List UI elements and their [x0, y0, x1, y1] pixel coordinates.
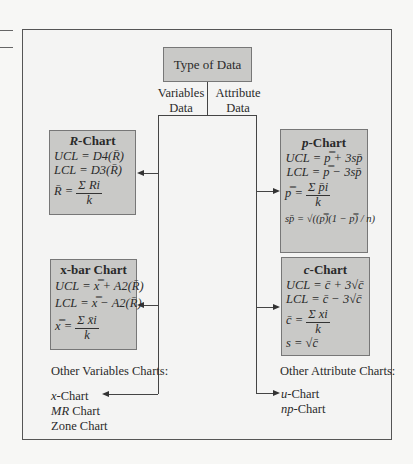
list-item: x-Chart	[51, 389, 108, 404]
xbar-chart-center: x̿ = Σ x̄ik	[55, 312, 132, 342]
xbar-chart-ucl: UCL = x̿ + A2(R̄)	[55, 279, 132, 293]
connector-line	[207, 82, 208, 115]
numerator: Σ x̄i	[75, 312, 99, 329]
other-variables-heading: Other Variables Charts:	[51, 364, 168, 379]
list-item: u-Chart	[281, 387, 325, 402]
arrow-right-icon	[273, 390, 280, 396]
title-rest: -Chart	[308, 135, 346, 150]
p-chart-box: p-Chart UCL = p̿ + 3sp̄ LCL = p̿ − 3sp̄ …	[280, 129, 368, 253]
fraction: Σ x̄ik	[75, 312, 99, 342]
connector-line	[256, 191, 273, 192]
c-chart-box: c-Chart UCL = c̄ + 3√c̄ LCL = c̄ − 3√c̄ …	[281, 257, 370, 356]
c-chart-title: c-Chart	[286, 263, 365, 277]
p-chart-lcl: LCL = p̿ − 3sp̄	[285, 165, 363, 179]
label-line: Data	[213, 101, 263, 116]
connector-line	[256, 393, 273, 394]
label-line: Attribute	[213, 86, 263, 101]
attribute-data-label: Attribute Data	[213, 86, 263, 116]
p-chart-std: sp̄ = √((p̿)(1 − p̿) / n)	[285, 212, 363, 226]
fraction: Σ p̄ik	[306, 179, 330, 209]
list-item: np-Chart	[281, 402, 325, 417]
arrow-right-icon	[273, 188, 280, 194]
margin-tick	[0, 30, 13, 31]
xbar-chart-box: x-bar Chart UCL = x̿ + A2(R̄) LCL = x̿ −…	[50, 259, 137, 350]
title-rest: -Chart	[78, 133, 116, 148]
center-lhs: p̿ =	[285, 186, 303, 200]
c-chart-center: c̄ = Σ xik	[286, 306, 365, 336]
connector-line	[256, 307, 273, 308]
connector-line	[143, 305, 158, 306]
r-chart-title: R-Chart	[54, 134, 131, 148]
label-line: Data	[156, 101, 206, 116]
c-chart-lcl: LCL = c̄ − 3√c̄	[286, 292, 365, 306]
type-of-data-box: Type of Data	[163, 47, 252, 82]
c-chart-ucl: UCL = c̄ + 3√c̄	[286, 278, 365, 292]
title-var: R	[69, 133, 78, 148]
p-chart-center: p̿ = Σ p̄ik	[285, 179, 363, 209]
other-attribute-heading: Other Attribute Charts:	[280, 364, 395, 379]
numerator: Σ p̄i	[306, 179, 330, 196]
arrow-right-icon	[273, 304, 280, 310]
center-lhs: c̄ =	[286, 313, 303, 327]
label-line: Variables	[156, 86, 206, 101]
denominator: k	[315, 196, 321, 209]
root-label: Type of Data	[174, 57, 242, 73]
center-lhs: x̿ =	[55, 319, 72, 333]
denominator: k	[84, 329, 90, 342]
list-item: Zone Chart	[51, 419, 108, 434]
title-rest: -Chart	[310, 262, 348, 277]
xbar-chart-title: x-bar Chart	[55, 263, 132, 277]
other-attribute-list: u-Chart np-Chart	[281, 387, 325, 417]
connector-line	[158, 115, 257, 116]
center-lhs: R̄ =	[54, 184, 73, 198]
r-chart-center: R̄ = Σ Rik	[54, 177, 131, 207]
fraction: Σ Rik	[76, 177, 102, 207]
other-variables-list: x-Chart MR Chart Zone Chart	[51, 389, 108, 434]
numerator: Σ xi	[306, 306, 330, 323]
denominator: k	[315, 323, 321, 336]
fraction: Σ xik	[306, 306, 330, 336]
arrow-left-icon	[137, 170, 144, 176]
variables-data-label: Variables Data	[156, 86, 206, 116]
attribute-branch-line	[256, 115, 257, 394]
xbar-chart-lcl: LCL = x̿ − A2(R̄)	[55, 296, 132, 310]
denominator: k	[86, 194, 92, 207]
connector-line	[108, 394, 158, 395]
c-chart-std: s = √c̄	[286, 336, 365, 350]
r-chart-ucl: UCL = D4(R̄)	[54, 149, 131, 163]
margin-tick	[0, 47, 13, 48]
p-chart-title: p-Chart	[285, 136, 363, 150]
r-chart-box: R-Chart UCL = D4(R̄) LCL = D3(R̄) R̄ = Σ…	[49, 130, 136, 215]
numerator: Σ Ri	[76, 177, 102, 194]
p-chart-ucl: UCL = p̿ + 3sp̄	[285, 151, 363, 165]
r-chart-lcl: LCL = D3(R̄)	[54, 163, 131, 177]
list-item: MR Chart	[51, 404, 108, 419]
connector-line	[143, 173, 158, 174]
variables-branch-line	[158, 115, 159, 394]
